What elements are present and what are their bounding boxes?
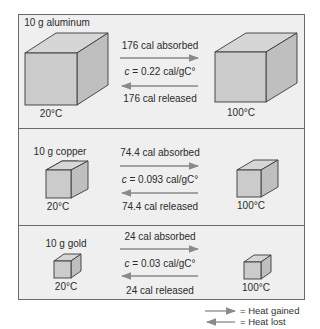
aluminum-label: 10 g aluminum — [24, 17, 90, 28]
legend-heat-gained: = Heat gained — [240, 305, 299, 316]
copper-cube-100c — [237, 160, 278, 197]
copper-end-temp: 100°C — [237, 200, 265, 211]
aluminum-specific-heat: c = 0.22 cal/gC° — [125, 66, 196, 77]
gold-start-temp: 20°C — [55, 281, 77, 292]
aluminum-end-temp: 100°C — [227, 107, 255, 118]
aluminum-released: 176 cal released — [123, 93, 196, 104]
copper-cube-20c — [46, 161, 88, 198]
gold-released: 24 cal released — [126, 285, 194, 296]
gold-label: 10 g gold — [45, 238, 86, 249]
aluminum-start-temp: 20°C — [40, 108, 62, 119]
copper-specific-heat: c = 0.093 cal/gC° — [122, 174, 199, 185]
gold-specific-heat: c = 0.03 cal/gC° — [125, 258, 196, 269]
copper-label: 10 g copper — [34, 146, 87, 157]
gold-cube-20c — [54, 254, 81, 278]
gold-end-temp: 100°C — [242, 282, 270, 293]
copper-absorbed: 74.4 cal absorbed — [120, 147, 200, 158]
aluminum-cube-100c — [215, 33, 297, 102]
copper-released: 74.4 cal released — [122, 201, 198, 212]
gold-absorbed: 24 cal absorbed — [124, 231, 195, 242]
legend-heat-lost: = Heat lost — [240, 316, 286, 327]
aluminum-cube-20c — [25, 33, 108, 105]
copper-start-temp: 20°C — [47, 201, 69, 212]
aluminum-absorbed: 176 cal absorbed — [122, 40, 199, 51]
gold-cube-100c — [244, 255, 271, 279]
